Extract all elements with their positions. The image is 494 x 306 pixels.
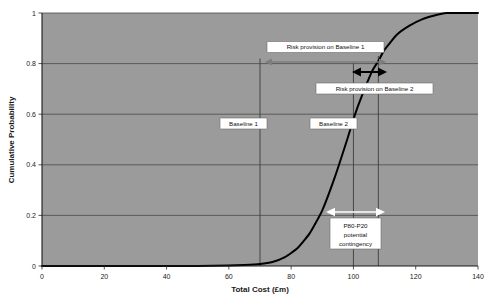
x-tick-label-100: 100 [348,273,360,280]
x-tick-label-140: 140 [472,273,484,280]
y-tick-label-0: 0 [32,263,36,270]
baseline-2-label: Baseline 2 [319,120,348,127]
y-tick-label-1: 1 [32,10,36,17]
p80-p20-label-line-3: contingency [339,240,373,247]
x-tick-label-0: 0 [40,273,44,280]
x-tick-label-120: 120 [410,273,422,280]
y-tick-label-0.8: 0.8 [26,60,36,67]
y-axis-title: Cumulative Probability [7,96,16,183]
x-tick-label-40: 40 [163,273,171,280]
risk-provision-2-label: Risk provision on Baseline 2 [336,85,414,92]
p80-p20-label-line-1: P80-P20 [343,222,368,229]
baseline-2-callout: Baseline 2 [310,118,357,129]
baseline-1-callout: Baseline 1 [220,118,267,129]
p80-p20-label-line-2: potential [344,231,367,238]
cumulative-probability-chart: 020406080100120140 00.20.40.60.81 Total … [0,0,494,306]
x-axis-title: Total Cost (£m) [231,285,289,294]
y-tick-label-0.2: 0.2 [26,212,36,219]
risk-provision-1-label: Risk provision on Baseline 1 [287,43,365,50]
x-tick-label-80: 80 [287,273,295,280]
baseline-1-label: Baseline 1 [229,120,258,127]
x-tick-label-20: 20 [100,273,108,280]
x-tick-label-60: 60 [225,273,233,280]
y-tick-label-0.6: 0.6 [26,111,36,118]
y-tick-label-0.4: 0.4 [26,161,36,168]
